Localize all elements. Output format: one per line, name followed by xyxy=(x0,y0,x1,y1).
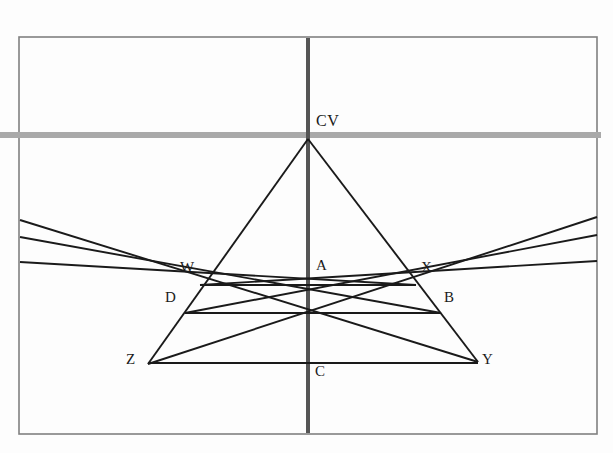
point-label-w: W xyxy=(180,260,195,275)
point-label-d: D xyxy=(165,290,176,305)
point-label-c: C xyxy=(315,364,326,379)
diagonal-from-right-edge-upper xyxy=(148,217,597,364)
point-label-z: Z xyxy=(126,352,136,367)
diagonal-from-left-edge-upper xyxy=(20,220,478,362)
point-label-a: A xyxy=(316,258,327,273)
cv-to-y xyxy=(308,139,478,362)
cv-to-z xyxy=(148,139,308,364)
point-label-cv: CV xyxy=(316,113,339,129)
perspective-diagram-canvas: CV A W X D B Z Y C xyxy=(0,0,613,453)
diagram-vector-layer xyxy=(0,0,613,453)
point-label-y: Y xyxy=(482,352,493,367)
point-label-x: X xyxy=(421,260,432,275)
point-label-b: B xyxy=(444,290,455,305)
